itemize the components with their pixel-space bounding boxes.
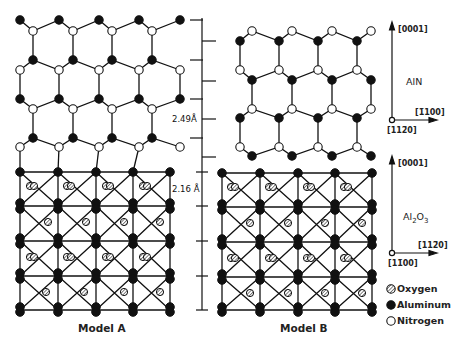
al2o3-sub2: 3 — [424, 217, 428, 225]
aluminum-legend-icon — [387, 301, 395, 309]
crystal-structure-diagram — [0, 0, 456, 344]
legend-aluminum-label: Aluminum — [397, 299, 451, 310]
model-b-label: Model B — [280, 322, 328, 334]
nitrogen-legend-icon — [387, 317, 395, 325]
aln-scale-label: 2.49Å — [172, 114, 197, 124]
al2o3-al: Al — [403, 211, 412, 222]
model-b-aln-layer — [240, 31, 371, 156]
al2o3-horizontal-axis-label: [112̄0] — [418, 241, 448, 250]
model-b-aln-atoms — [236, 27, 375, 160]
al2o3-vertical-axis-label: [0001] — [398, 159, 428, 168]
al2o3-scale-label: 2.16 Å — [172, 184, 199, 194]
aln-material-label: AlN — [406, 76, 422, 87]
al2o3-material-label: Al2O3 — [403, 211, 429, 225]
aln-normal-axis-label: [112̄0] — [387, 126, 417, 135]
legend-symbols — [387, 285, 395, 325]
model-a-label: Model A — [78, 322, 126, 334]
oxygen-legend-icon — [387, 285, 395, 293]
scale-bar — [190, 18, 216, 310]
legend-nitrogen-label: Nitrogen — [397, 315, 444, 326]
al2o3-normal-axis-label: [11̄00] — [388, 259, 418, 268]
al2o3-o: O — [417, 211, 424, 222]
aln-vertical-axis-label: [0001] — [398, 25, 428, 34]
model-a-aln-atoms — [16, 16, 184, 151]
aln-horizontal-axis-label: [1̄100] — [415, 108, 445, 117]
legend-oxygen-label: Oxygen — [397, 283, 437, 294]
